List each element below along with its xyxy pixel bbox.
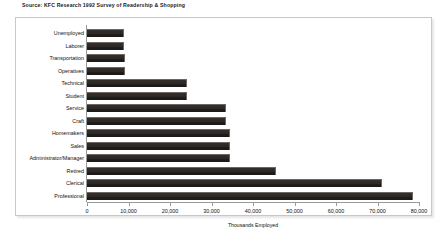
category-label: Transportation [49,52,84,65]
x-tick-mark [419,202,420,206]
bar [87,42,124,50]
source-note: Source: KFC Research 1992 Survey of Read… [22,2,185,8]
bar [87,167,276,175]
x-axis-title: Thousands Employed [87,222,419,228]
bar [87,29,124,37]
x-tick-label: 80,000 [411,208,428,214]
x-tick-label: 70,000 [369,208,386,214]
bar [87,179,382,187]
bar [87,142,230,150]
category-label: Homemakers [52,127,84,140]
bar [87,129,230,137]
x-tick-mark [87,202,88,206]
bar [87,92,187,100]
x-tick-label: 60,000 [328,208,345,214]
category-label: Operatives [58,65,84,78]
category-label: Craft [72,115,84,128]
x-tick-label: 50,000 [286,208,303,214]
category-label: Clerical [66,177,84,190]
bar [87,192,413,200]
x-tick-label: 20,000 [162,208,179,214]
x-tick-label: 0 [86,208,89,214]
category-label: Sales [71,140,85,153]
x-tick-mark [336,202,337,206]
x-tick-label: 10,000 [120,208,137,214]
bar [87,154,230,162]
category-label: Technical [62,77,84,90]
bar [87,104,226,112]
x-tick-label: 40,000 [245,208,262,214]
category-label: Administrator/Manager [29,152,84,165]
bar [87,67,125,75]
x-tick-mark [295,202,296,206]
category-label: Professional [54,190,84,203]
bar-chart-plot-area: UnemployedLaborerTransportationOperative… [87,27,419,202]
category-label: Student [65,90,84,103]
y-axis-line [86,25,87,202]
x-tick-label: 30,000 [203,208,220,214]
x-tick-mark [378,202,379,206]
x-tick-mark [212,202,213,206]
bar [87,117,226,125]
category-label: Unemployed [54,27,84,40]
category-label: Laborer [65,40,84,53]
x-tick-mark [129,202,130,206]
x-tick-mark [253,202,254,206]
bar [87,79,187,87]
category-label: Service [66,102,84,115]
bar [87,54,125,62]
x-tick-mark [170,202,171,206]
category-label: Retired [67,165,84,178]
